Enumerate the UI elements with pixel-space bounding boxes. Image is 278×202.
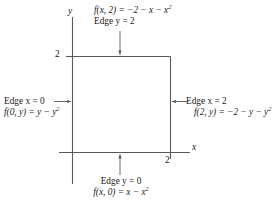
right-edge-annotation: Edge x = 2 f(2, y) = −2 − y − y2	[186, 96, 271, 118]
top-edge-annotation: f(x, 2) = −2 − x − x2 Edge y = 2	[94, 5, 171, 27]
y-tick-label-2: 2	[55, 49, 60, 59]
top-edge-name: Edge y = 2	[94, 16, 171, 27]
bottom-edge-exponent: 2	[146, 185, 149, 192]
left-edge-annotation: Edge x = 0 f(0, y) = y − y2	[4, 96, 60, 118]
left-edge-formula: f(0, y) = y − y2	[4, 107, 60, 118]
left-edge-exponent: 2	[56, 105, 59, 112]
bottom-edge-name: Edge y = 0	[71, 176, 171, 187]
right-edge-formula: f(2, y) = −2 − y − y2	[186, 107, 271, 118]
right-edge-name: Edge x = 2	[186, 96, 271, 107]
x-axis-label: x	[192, 142, 196, 152]
bottom-edge-formula: f(x, 0) = x − x2	[71, 187, 171, 198]
top-edge-exponent: 2	[168, 3, 171, 10]
left-edge-name: Edge x = 0	[4, 96, 60, 107]
top-edge-formula: f(x, 2) = −2 − x − x2	[94, 5, 171, 16]
right-edge-exponent: 2	[268, 105, 271, 112]
figure-canvas: y x 2 2 f(x, 2) = −2 − x − x2 Edge y = 2…	[0, 0, 278, 202]
y-axis-label: y	[68, 6, 72, 16]
x-tick-label-2: 2	[165, 155, 170, 165]
bottom-edge-annotation: Edge y = 0 f(x, 0) = x − x2	[71, 176, 171, 198]
